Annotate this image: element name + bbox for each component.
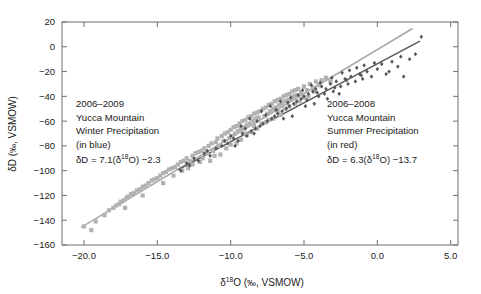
winter-annotation-line: 2006–2009 — [76, 98, 124, 109]
winter-annotation-line: (in blue) — [76, 139, 111, 150]
x-tick-label: −10.0 — [219, 250, 243, 261]
winter-annotation-line: Yucca Mountain — [76, 112, 144, 123]
data-point — [171, 174, 175, 178]
summer-annotation-line: Yucca Mountain — [327, 112, 395, 123]
data-point — [102, 213, 106, 217]
data-point — [107, 208, 111, 212]
summer-annotation-line: Summer Precipitation — [327, 125, 419, 136]
winter-annotation-line: Winter Precipitation — [76, 125, 159, 136]
data-point — [290, 114, 294, 118]
data-point — [334, 79, 338, 83]
x-tick-label: −15.0 — [145, 250, 169, 261]
data-point — [211, 149, 215, 153]
data-point — [202, 146, 206, 150]
x-tick-labels: −20.0−15.0−10.0−5.00.05.0 — [72, 250, 457, 261]
data-point — [420, 35, 424, 39]
y-tick-labels: 200−20−40−60−80−100−120−140−160 — [34, 16, 55, 250]
figure-container: 200−20−40−60−80−100−120−140−160 −20.0−15… — [0, 0, 481, 294]
scatter-plot: 200−20−40−60−80−100−120−140−160 −20.0−15… — [0, 0, 481, 294]
data-point — [214, 140, 218, 144]
data-point — [384, 72, 388, 76]
data-point — [123, 206, 127, 210]
data-point — [348, 68, 352, 72]
data-point — [208, 159, 212, 163]
summer-annotation-line: 2006–2008 — [327, 98, 375, 109]
x-tick-label: −5.0 — [295, 250, 314, 261]
x-tick-label: −20.0 — [72, 250, 96, 261]
y-tick-label: 0 — [50, 41, 55, 52]
data-point — [355, 66, 359, 70]
y-tick-label: −100 — [34, 165, 55, 176]
data-point — [346, 82, 350, 86]
y-tick-label: −140 — [34, 215, 55, 226]
data-point — [332, 89, 336, 93]
y-tick-label: 20 — [44, 16, 55, 27]
data-point — [376, 67, 380, 71]
y-tick-label: −20 — [39, 66, 55, 77]
data-point — [210, 141, 214, 145]
data-point — [218, 152, 222, 156]
data-point — [201, 156, 205, 160]
data-point — [305, 88, 309, 92]
data-point — [337, 92, 341, 96]
data-point — [354, 79, 358, 83]
data-point — [402, 74, 406, 78]
data-point — [296, 87, 300, 91]
x-tick-label: 0.0 — [371, 250, 384, 261]
data-point — [362, 63, 366, 67]
data-point — [399, 55, 403, 59]
data-point — [396, 64, 400, 68]
summer-annotation-line: (in red) — [327, 139, 357, 150]
data-point — [304, 104, 308, 108]
data-point — [312, 102, 316, 106]
data-point — [212, 154, 216, 158]
data-point — [215, 136, 219, 140]
winter-annotation-equation: δD = 7.1(δ18O) −2.3 — [76, 153, 161, 165]
data-point — [414, 52, 418, 56]
data-point — [324, 76, 328, 80]
y-tick-label: −120 — [34, 190, 55, 201]
y-tick-label: −80 — [39, 140, 55, 151]
data-point — [387, 69, 391, 73]
data-point — [94, 219, 98, 223]
data-point — [89, 228, 93, 232]
y-tick-label: −160 — [34, 239, 55, 250]
data-point — [339, 84, 343, 88]
data-point — [224, 146, 228, 150]
summer-annotation-equation: δD = 6.3(δ18O) −13.7 — [327, 153, 417, 165]
data-point — [390, 60, 394, 64]
x-axis-title: δ18O (‰, VSMOW) — [220, 276, 304, 288]
data-point — [370, 74, 374, 78]
data-point — [314, 79, 318, 83]
data-point — [188, 159, 192, 163]
data-point — [302, 84, 306, 88]
data-point — [161, 181, 165, 185]
x-tick-label: 5.0 — [444, 250, 457, 261]
y-tick-label: −40 — [39, 91, 55, 102]
data-point — [82, 224, 86, 228]
data-point — [141, 193, 145, 197]
data-point — [256, 115, 260, 119]
data-point — [361, 77, 365, 81]
y-axis-title: δD (‰, VSMOW) — [7, 96, 18, 172]
data-point — [408, 57, 412, 61]
y-tick-label: −60 — [39, 116, 55, 127]
data-point — [282, 117, 286, 121]
